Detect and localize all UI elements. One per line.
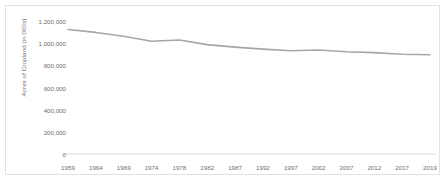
x-axis-tick-label: 2002	[312, 164, 326, 171]
x-axis-tick-label: 1959	[61, 164, 75, 171]
x-axis-tick-label: 1992	[256, 164, 270, 171]
x-axis-tick-label: 1964	[89, 164, 103, 171]
x-axis-tick-label: 1987	[228, 164, 242, 171]
chart-container: 0200,000400,000600,000800,0001,000,0001,…	[5, 5, 440, 175]
x-axis-tick-label: 2019	[423, 164, 437, 171]
x-axis-tick-labels: 1959196419691974197819821987199219972002…	[6, 6, 441, 176]
x-axis-tick-label: 2017	[395, 164, 409, 171]
x-axis-tick-label: 1969	[117, 164, 131, 171]
x-axis-tick-label: 2012	[367, 164, 381, 171]
x-axis-tick-label: 2007	[340, 164, 354, 171]
x-axis-tick-label: 1982	[200, 164, 214, 171]
x-axis-tick-label: 1974	[145, 164, 159, 171]
y-axis-title: Acres of Cropland (in 000s)	[20, 3, 27, 113]
x-axis-tick-label: 1978	[172, 164, 186, 171]
x-axis-tick-label: 1997	[284, 164, 298, 171]
